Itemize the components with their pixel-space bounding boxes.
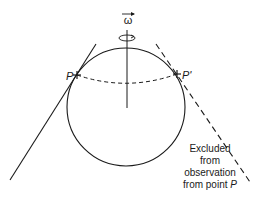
omega-label: ω: [124, 14, 133, 26]
excluded-region-note: Excluded from observation from point P: [183, 143, 237, 190]
sphere-rotation-diagram: ω P P' Excluded from observation from po…: [0, 0, 254, 197]
sphere-outline: [67, 48, 185, 166]
note-line-1: Excluded: [189, 143, 230, 154]
note-line-4-var: P: [230, 179, 237, 190]
point-p-prime-label: P': [182, 69, 192, 81]
point-p-label: P: [66, 70, 74, 82]
tangent-line-p: [10, 44, 96, 180]
note-line-4-prefix: from point: [183, 179, 230, 190]
note-line-3: observation: [184, 167, 236, 178]
note-line-2: from: [200, 155, 220, 166]
note-line-4: from point P: [183, 179, 237, 190]
